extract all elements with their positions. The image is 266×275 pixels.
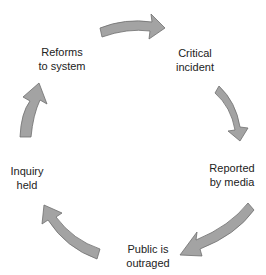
- node-label-line: outraged: [126, 256, 169, 270]
- node-label-line: Reforms: [38, 45, 85, 59]
- node-critical-incident: Critical incident: [176, 46, 214, 74]
- node-label-line: Critical: [176, 46, 214, 60]
- node-label-line: Reported: [209, 161, 254, 175]
- arrow-public-to-inquiry-icon: [42, 205, 100, 259]
- node-reforms-to-system: Reforms to system: [38, 45, 85, 73]
- node-label-line: held: [10, 178, 43, 192]
- node-label-line: to system: [38, 59, 85, 73]
- arrow-critical-to-reported-icon: [215, 86, 248, 141]
- node-public-is-outraged: Public is outraged: [126, 242, 169, 270]
- arrow-inquiry-to-reforms-icon: [20, 83, 47, 137]
- node-label-line: by media: [209, 175, 254, 189]
- arrow-reported-to-public-icon: [180, 203, 254, 256]
- cycle-diagram: Reforms to system Critical incident Repo…: [0, 0, 266, 275]
- node-inquiry-held: Inquiry held: [10, 164, 43, 192]
- arrow-reforms-to-critical-icon: [100, 14, 165, 39]
- node-reported-by-media: Reported by media: [209, 161, 254, 189]
- node-label-line: incident: [176, 60, 214, 74]
- node-label-line: Inquiry: [10, 164, 43, 178]
- node-label-line: Public is: [126, 242, 169, 256]
- cycle-arrows: [0, 0, 266, 275]
